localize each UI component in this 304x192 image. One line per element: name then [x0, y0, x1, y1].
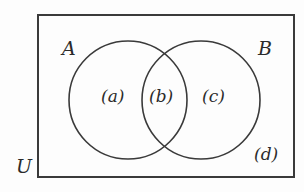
region-intersection-label: (b) [149, 88, 173, 105]
region-b-only-label: (c) [202, 88, 225, 105]
region-a-only-label: (a) [101, 88, 124, 105]
venn-diagram-canvas: A B U (a) (b) (c) (d) [0, 0, 304, 192]
universe-label: U [16, 157, 32, 176]
region-outside-label: (d) [254, 146, 278, 163]
set-b-label: B [258, 39, 272, 58]
set-a-label: A [62, 39, 76, 58]
